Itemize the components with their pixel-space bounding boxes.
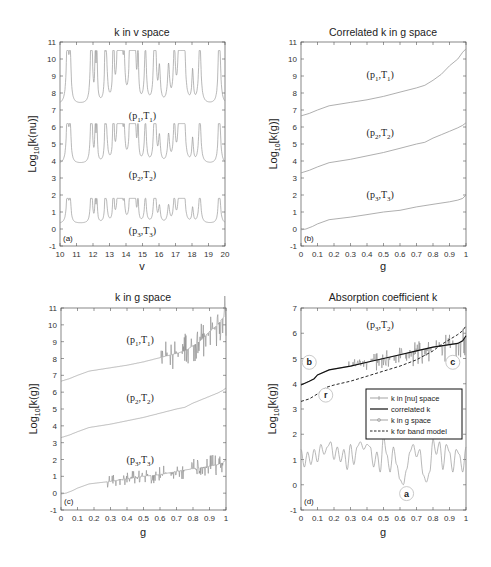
y-tick-label: 8 — [293, 89, 298, 98]
y-tick-label: 9 — [53, 338, 58, 347]
x-tick-label: 1 — [464, 514, 469, 523]
k-nu-space-line — [301, 437, 466, 485]
panel-a-ylabel: Log10[k(nu)] — [26, 115, 40, 172]
figure-canvas: k in v space 1011121314151617181920-1012… — [0, 0, 491, 567]
y-tick-label: 7 — [53, 371, 58, 380]
y-tick-label: 6 — [53, 388, 58, 397]
y-tick-label: 2 — [293, 430, 298, 439]
y-tick-label: 1 — [293, 456, 298, 465]
y-tick-label: 7 — [52, 106, 57, 115]
series-annotation: (p3,T3) — [127, 454, 154, 468]
x-tick-label: 0 — [59, 514, 64, 523]
panel-a-tag: (a) — [63, 234, 73, 243]
panel-a-axes — [60, 42, 225, 246]
x-tick-label: 0.6 — [394, 514, 406, 523]
panel-d-xlabel: g — [380, 526, 386, 538]
panel-b-annotations: (p1,T1)(p2,T2)(p3,T3) — [367, 69, 394, 204]
legend-entry-label: k for band model — [391, 427, 447, 436]
x-tick-label: 15 — [138, 250, 147, 259]
x-tick-label: 16 — [155, 250, 164, 259]
panel-c-title: k in g space — [115, 291, 171, 303]
panel-d-title: Absorption coefficient k — [329, 291, 438, 303]
y-tick-label: 2 — [53, 456, 58, 465]
y-tick-label: 6 — [293, 329, 298, 338]
y-tick-label: -1 — [49, 242, 57, 251]
x-tick-label: 0.1 — [72, 514, 84, 523]
y-tick-label: -1 — [290, 242, 298, 251]
y-tick-label: 0 — [53, 489, 58, 498]
y-tick-label: 10 — [288, 55, 297, 64]
y-tick-label: 3 — [293, 405, 298, 414]
y-tick-label: 5 — [53, 405, 58, 414]
panel-c-ylabel: Log10[k(g)] — [27, 383, 41, 434]
y-tick-label: 10 — [47, 55, 56, 64]
x-tick-label: 0.5 — [138, 514, 150, 523]
x-tick-label: 0.1 — [312, 250, 324, 259]
panel-a: k in v space 1011121314151617181920-1012… — [26, 26, 230, 272]
spectrum-line — [60, 198, 225, 222]
spectrum-line — [60, 124, 225, 163]
panel-c: k in g space 00.10.20.30.40.50.60.70.80.… — [27, 291, 229, 538]
y-tick-label: 11 — [49, 304, 58, 313]
x-tick-label: 0.7 — [411, 514, 423, 523]
y-tick-label: -1 — [50, 506, 58, 515]
y-tick-label: 2 — [293, 191, 298, 200]
x-tick-label: 0.2 — [88, 514, 100, 523]
panel-c-xlabel: g — [140, 526, 146, 538]
y-tick-label: 9 — [293, 72, 298, 81]
x-tick-label: 0.3 — [345, 514, 357, 523]
y-tick-label: 5 — [293, 355, 298, 364]
y-tick-label: 7 — [293, 106, 298, 115]
x-tick-label: 0.5 — [378, 250, 390, 259]
y-tick-label: 5 — [52, 140, 57, 149]
panel-b-title: Correlated k in g space — [329, 26, 437, 38]
legend-entry-label: correlated k — [391, 405, 430, 414]
x-tick-label: 0.6 — [394, 250, 406, 259]
x-tick-label: 0.8 — [427, 514, 439, 523]
y-tick-label: 0 — [293, 225, 298, 234]
series-annotation: (p3,T3) — [367, 189, 394, 203]
series-annotation: (p3,T2) — [367, 319, 394, 333]
x-tick-label: 19 — [204, 250, 213, 259]
y-tick-label: 4 — [293, 380, 298, 389]
x-tick-label: 17 — [171, 250, 180, 259]
series-annotation: (p1,T1) — [127, 334, 154, 348]
x-tick-label: 18 — [188, 250, 197, 259]
x-tick-label: 0.7 — [411, 250, 423, 259]
marker-label: r — [324, 390, 328, 400]
x-tick-label: 0.5 — [378, 514, 390, 523]
y-tick-label: 4 — [293, 157, 298, 166]
series-annotation: (p2,T2) — [367, 127, 394, 141]
y-tick-label: 3 — [52, 174, 57, 183]
panel-c-tag: (c) — [64, 497, 74, 506]
y-tick-label: 3 — [53, 439, 58, 448]
x-tick-label: 0.2 — [328, 250, 340, 259]
panel-d-ylabel: Log10[k(g)] — [266, 383, 280, 434]
x-tick-label: 0.4 — [361, 250, 373, 259]
series-annotation: (p2,T2) — [127, 392, 154, 406]
series-annotation: (p3,T3) — [129, 225, 156, 239]
y-tick-label: 0 — [293, 481, 298, 490]
x-tick-label: 11 — [72, 250, 81, 259]
panel-c-annotations: (p1,T1)(p2,T2)(p3,T3) — [127, 334, 154, 468]
y-tick-label: 2 — [52, 191, 57, 200]
series-annotation: (p1,T1) — [367, 69, 394, 83]
x-tick-label: 0.8 — [187, 514, 199, 523]
panel-b-ylabel: Log10[k(g)] — [267, 118, 281, 169]
x-tick-label: 0 — [299, 514, 304, 523]
x-tick-label: 0.7 — [171, 514, 183, 523]
panel-b-xlabel: g — [380, 260, 386, 272]
series-annotation: (p2,T2) — [129, 169, 156, 183]
x-tick-label: 13 — [105, 250, 114, 259]
x-tick-label: 0.3 — [105, 514, 117, 523]
x-tick-label: 0.1 — [312, 514, 324, 523]
x-tick-label: 0.8 — [427, 250, 439, 259]
x-tick-label: 0.4 — [361, 514, 373, 523]
y-tick-label: 3 — [293, 174, 298, 183]
correlated-k-line — [301, 49, 466, 116]
legend-entry-label: k in g space — [391, 416, 431, 425]
x-tick-label: 0.3 — [345, 250, 357, 259]
x-tick-label: 14 — [122, 250, 131, 259]
y-tick-label: 0 — [52, 225, 57, 234]
y-tick-label: 10 — [48, 321, 57, 330]
